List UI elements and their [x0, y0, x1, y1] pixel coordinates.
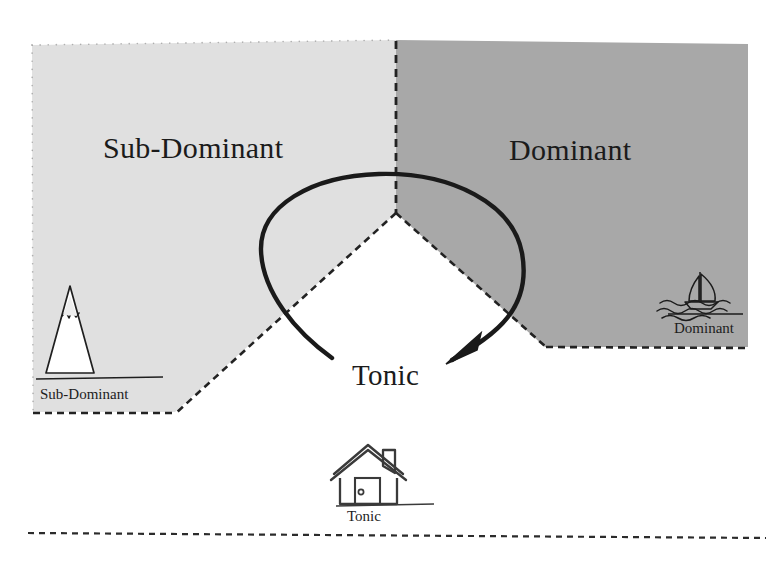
house-doorknob-icon [358, 489, 363, 494]
diagram-canvas: Sub-Dominant Dominant Tonic Sub-Dominant… [0, 0, 775, 574]
house-icon [331, 445, 434, 506]
diagram-scene [0, 0, 775, 574]
icon-caption-sub-dominant: Sub-Dominant [40, 386, 128, 403]
motion-arrowhead-icon [446, 333, 481, 364]
icon-caption-dominant: Dominant [674, 320, 734, 337]
icon-caption-tonic: Tonic [347, 508, 381, 525]
baseline-dashed-rule [28, 533, 766, 538]
region-label-tonic: Tonic [352, 359, 419, 392]
region-label-sub-dominant: Sub-Dominant [103, 131, 283, 165]
border-dominant-bottom [546, 347, 749, 348]
region-label-dominant: Dominant [509, 133, 631, 167]
